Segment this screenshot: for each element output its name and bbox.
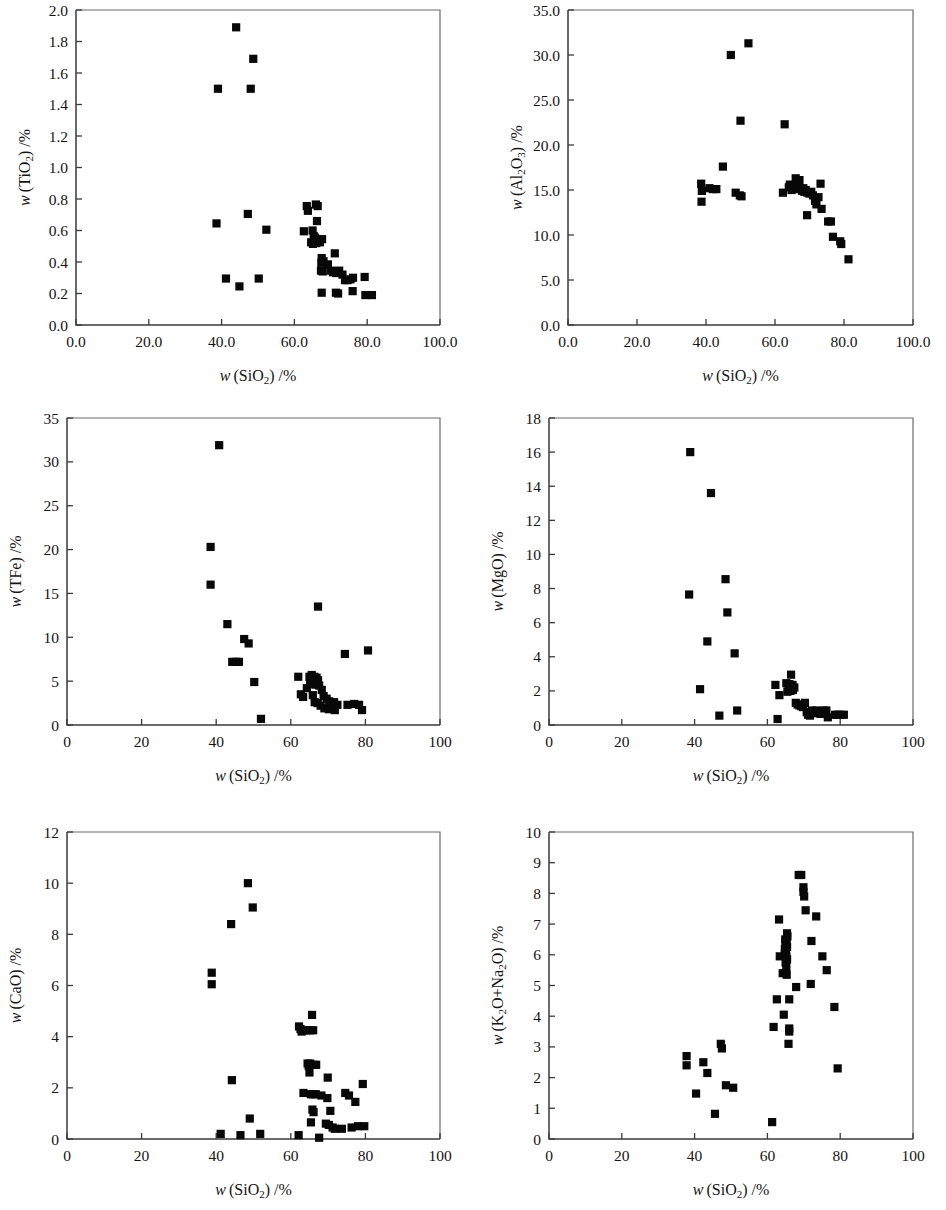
x-tick-label: 40 [687,1147,703,1164]
data-point [785,995,793,1003]
y-tick-label: 2 [51,1079,59,1096]
data-point [334,289,342,297]
scatter-plot-k2o_na2o: 012345678910020406080100w (SiO2) /%w (K2… [473,800,946,1210]
data-point [790,683,798,691]
data-point [775,915,783,923]
y-tick-label: 12 [526,512,542,529]
data-point [768,1118,776,1126]
y-axis-title: w (CaO) /% [7,948,25,1024]
data-point [255,274,263,282]
data-point [787,671,795,679]
data-point [829,233,837,241]
y-axis: 024681012 [44,824,74,1148]
x-tick-label: 60 [283,733,299,750]
y-tick-label: 20.0 [533,137,560,154]
x-tick-label: 80.0 [354,333,381,350]
x-tick-label: 20 [134,1147,150,1164]
data-point [326,1107,334,1115]
x-tick-label: 100 [901,1147,925,1164]
x-tick-label: 20 [614,733,630,750]
y-tick-label: 5 [51,673,59,690]
x-tick-label: 40 [208,1147,224,1164]
data-point [736,117,744,125]
data-point [324,1074,332,1082]
x-tick-label: 20 [614,1147,630,1164]
data-point [769,1023,777,1031]
y-tick-label: 6 [533,946,541,963]
data-point [247,85,255,93]
data-point [236,1131,244,1139]
y-tick-label: 16 [526,444,542,461]
y-tick-label: 18 [526,410,542,427]
x-axis-title: w (SiO2) /% [220,367,297,386]
x-tick-label: 60.0 [281,333,308,350]
x-axis: 020406080100 [63,719,452,750]
data-point [309,1026,317,1034]
data-point [780,1011,788,1019]
data-point [703,1069,711,1077]
data-series-points [208,879,369,1142]
x-tick-label: 100.0 [896,333,931,350]
x-axis-title: w (SiO2) /% [215,767,292,786]
data-point [812,912,820,920]
y-tick-label: 10 [526,824,542,841]
scatter-plot-tfe: 05101520253035020406080100w (SiO2) /%w (… [0,395,473,800]
x-tick-label: 60.0 [761,333,788,350]
x-tick-label: 0.0 [66,333,86,350]
y-tick-label: 10.0 [533,227,560,244]
y-tick-label: 10 [44,629,60,646]
data-point [697,198,705,206]
data-point [834,1064,842,1072]
data-point [313,217,321,225]
data-point [214,85,222,93]
y-tick-label: 0 [533,1131,541,1148]
y-tick-label: 35 [44,410,60,427]
y-tick-label: 0.2 [49,285,68,302]
y-tick-label: 0 [51,717,59,734]
data-point [331,1125,339,1133]
x-tick-label: 0.0 [558,333,578,350]
y-tick-label: 4 [533,1008,541,1025]
data-point [698,187,706,195]
data-point [803,211,811,219]
chart-panel-mgo: 024681012141618020406080100w (SiO2) /%w … [473,395,946,800]
y-tick-label: 1.6 [49,65,69,82]
x-tick-label: 0 [63,733,71,750]
plot-frame [549,832,913,1139]
y-axis: 05101520253035 [44,410,74,734]
x-tick-label: 80 [358,733,374,750]
data-point [359,1080,367,1088]
data-point [223,620,231,628]
data-point [235,658,243,666]
plot-frame [67,832,440,1139]
chart-panel-cao: 024681012020406080100w (SiO2) /%w (CaO) … [0,800,473,1210]
data-series-points [207,441,373,723]
x-axis: 0.020.040.060.080.0100.0 [66,319,457,350]
x-tick-label: 80.0 [830,333,857,350]
data-point [304,207,312,215]
data-point [333,701,341,709]
x-axis: 020406080100 [545,719,925,750]
data-point [840,711,848,719]
data-point [711,1110,719,1118]
data-point [699,1058,707,1066]
data-point [682,1052,690,1060]
y-tick-label: 0.8 [49,191,69,208]
chart-panel-al2o3: 0.05.010.015.020.025.030.035.00.020.040.… [473,0,946,395]
y-axis: 012345678910 [526,824,556,1148]
data-point [844,255,852,263]
x-tick-label: 0 [545,1147,553,1164]
data-point [360,1122,368,1130]
y-tick-label: 15 [44,585,60,602]
data-point [305,1068,313,1076]
data-point [837,240,845,248]
y-axis-title: w (Al2O3) /% [508,125,527,210]
data-point [731,649,739,657]
y-tick-label: 10 [526,546,542,563]
data-point [349,274,357,282]
data-point [250,678,258,686]
data-point [318,235,326,243]
data-point [351,1098,359,1106]
data-point [299,1089,307,1097]
data-point [801,699,809,707]
